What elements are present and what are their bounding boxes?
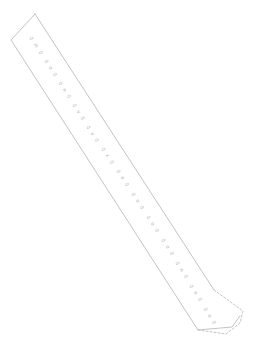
strip-outline-graphic [0,0,254,357]
strip-right-edge [35,14,214,290]
strip-dashed-tab-outline [198,290,243,334]
screenshot-canvas: 0 m 00 o 00 n 00 v 00 v 00 x 00 e 00 o 0… [0,0,254,357]
strip-solid-outline [11,14,240,330]
strip-shape-group [11,14,243,334]
